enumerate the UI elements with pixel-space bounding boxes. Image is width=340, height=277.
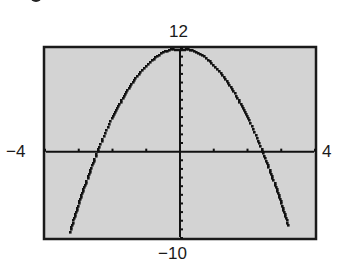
curve-dot	[259, 145, 262, 148]
curve-dot	[280, 202, 283, 205]
curve-dot	[264, 157, 267, 160]
curve-dot	[272, 179, 275, 182]
curve-dot	[108, 123, 111, 126]
curve-dot	[255, 134, 258, 137]
curve-dot	[105, 129, 108, 132]
curve-dot	[107, 126, 110, 129]
calculator-graph-screen	[0, 0, 340, 277]
curve-dot	[95, 153, 98, 156]
curve-dot	[99, 143, 102, 146]
curve-dot	[253, 131, 256, 134]
curve-dot	[172, 48, 175, 51]
curve-dot	[90, 167, 93, 170]
curve-dot	[287, 224, 290, 227]
curve-dot	[251, 125, 254, 128]
curve-dot	[109, 120, 112, 123]
curve-dot	[252, 128, 255, 131]
curve-dot	[234, 92, 237, 95]
curve-dot	[77, 205, 80, 208]
curve-dot	[85, 180, 88, 183]
curve-dot	[103, 135, 106, 138]
curve-dot	[104, 132, 107, 135]
curve-dot	[248, 119, 251, 122]
curve-dot	[267, 166, 270, 169]
curve-dot	[98, 146, 101, 149]
curve-dot	[72, 222, 75, 225]
curve-dot	[69, 231, 72, 234]
curve-dot	[101, 138, 104, 141]
curve-dot	[262, 152, 265, 155]
curve-dot	[256, 137, 259, 140]
curve-dot	[249, 122, 252, 125]
curve-dot	[258, 142, 261, 145]
curve-dot	[93, 158, 96, 161]
curve-dot	[286, 219, 289, 222]
